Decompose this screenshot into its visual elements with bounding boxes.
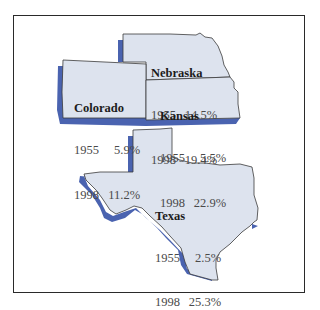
data-row-1955: 1955 2.5%	[155, 251, 221, 265]
data-row-1998: 1998 11.2%	[74, 188, 140, 202]
data-row-1955: 1955 5.9%	[74, 143, 140, 157]
data-row-1998: 1998 25.3%	[155, 295, 221, 309]
label-texas: Texas 1955 2.5% 1998 25.3%	[155, 181, 221, 310]
state-name: Colorado	[74, 101, 140, 115]
state-name: Texas	[155, 209, 221, 223]
data-row-1955: 1955 5.5%	[160, 151, 226, 165]
state-name: Nebraska	[151, 66, 217, 80]
texas-shadow-coast	[252, 224, 258, 229]
state-name: Kansas	[160, 109, 226, 123]
label-colorado: Colorado 1955 5.9% 1998 11.2%	[74, 73, 140, 216]
nebraska-shadow	[118, 40, 123, 62]
